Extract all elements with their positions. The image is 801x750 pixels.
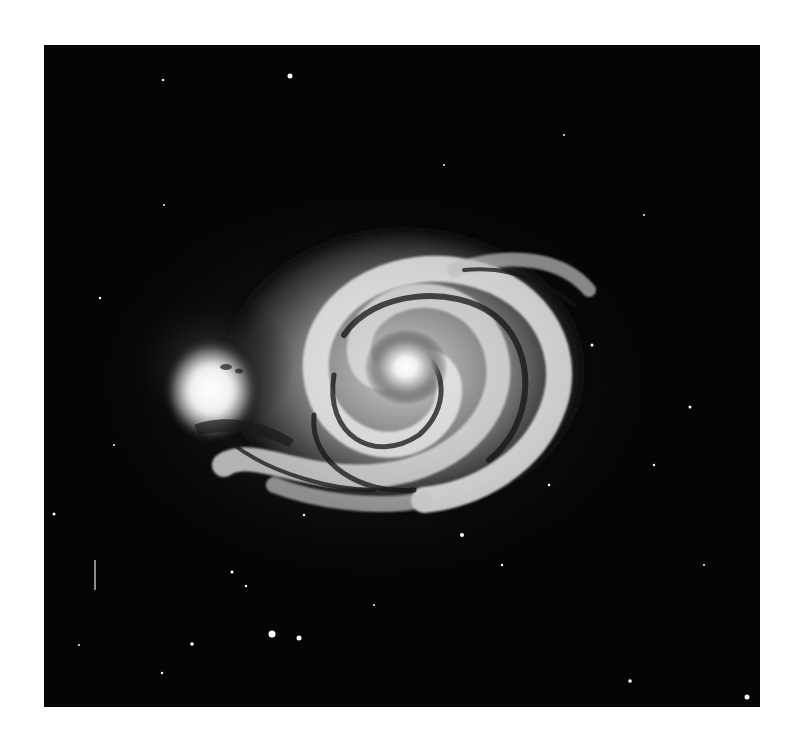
star (190, 642, 194, 646)
star (591, 344, 594, 347)
star (161, 672, 163, 674)
star (443, 164, 445, 166)
star (231, 571, 234, 574)
star (113, 444, 115, 446)
star (373, 604, 375, 606)
star (628, 679, 632, 683)
star (269, 631, 276, 638)
star (548, 484, 550, 486)
star (53, 513, 56, 516)
star (501, 564, 503, 566)
star (163, 204, 165, 206)
star (99, 297, 101, 299)
star (245, 585, 247, 587)
star (303, 514, 305, 516)
galaxy-core (364, 329, 448, 405)
galaxy-photograph (44, 45, 760, 707)
star (643, 214, 645, 216)
star (288, 74, 293, 79)
star (745, 695, 750, 700)
star (563, 134, 565, 136)
star (689, 406, 692, 409)
star-field (44, 45, 760, 707)
star (297, 636, 302, 641)
star (653, 464, 655, 466)
star (78, 644, 80, 646)
star (162, 79, 164, 81)
star (703, 564, 705, 566)
star (460, 533, 464, 537)
